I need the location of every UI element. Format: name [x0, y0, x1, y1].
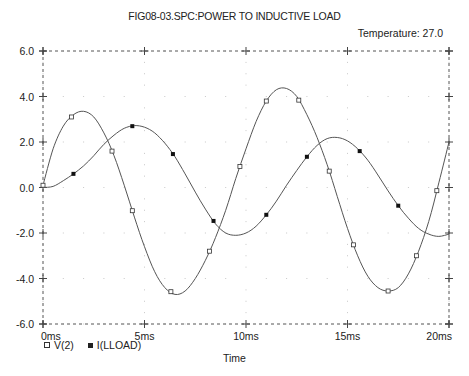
- grid-dot: [286, 187, 287, 188]
- open-square-marker-icon: [238, 165, 242, 169]
- grid-dot: [286, 324, 287, 325]
- grid-dot: [388, 96, 389, 97]
- grid-dot: [347, 301, 348, 302]
- grid-dot: [246, 267, 247, 268]
- filled-square-marker-icon: [171, 152, 175, 156]
- grid-dot: [246, 85, 247, 86]
- grid-dot: [246, 221, 247, 222]
- filled-square-marker-icon: [88, 343, 93, 348]
- y-tick-label: 0.0: [19, 182, 34, 194]
- grid-dot: [144, 289, 145, 290]
- grid-dot: [144, 107, 145, 108]
- grid-dot: [408, 187, 409, 188]
- grid-dot: [83, 96, 84, 97]
- grid-dot: [367, 142, 368, 143]
- grid-dot: [144, 153, 145, 154]
- grid-dot: [367, 278, 368, 279]
- filled-square-marker-icon: [130, 124, 134, 128]
- grid-dot: [43, 73, 44, 74]
- grid-dot: [185, 142, 186, 143]
- grid-dot: [43, 289, 44, 290]
- grid-dot: [306, 142, 307, 143]
- grid-dot: [347, 119, 348, 120]
- filled-square-marker-icon: [264, 213, 268, 217]
- grid-dot: [185, 96, 186, 97]
- open-square-marker-icon: [386, 289, 390, 293]
- grid-dot: [144, 85, 145, 86]
- grid-dot: [449, 312, 450, 313]
- grid-dot: [246, 301, 247, 302]
- grid-dot: [144, 164, 145, 165]
- grid-dot: [43, 62, 44, 63]
- filled-square-marker-icon: [358, 149, 362, 153]
- grid-dot: [246, 62, 247, 63]
- grid-dot: [164, 187, 165, 188]
- grid-dot: [103, 187, 104, 188]
- filled-square-marker-icon: [396, 204, 400, 208]
- grid-dot: [185, 233, 186, 234]
- grid-dot: [83, 142, 84, 143]
- grid-dot: [205, 278, 206, 279]
- grid-dot: [347, 221, 348, 222]
- grid-dot: [246, 244, 247, 245]
- grid-dot: [428, 96, 429, 97]
- grid-dot: [286, 233, 287, 234]
- grid-dot: [327, 278, 328, 279]
- grid-dot: [347, 255, 348, 256]
- grid-dot: [124, 142, 125, 143]
- y-tick-label: 2.0: [19, 136, 34, 148]
- grid-dot: [347, 85, 348, 86]
- grid-dot: [428, 278, 429, 279]
- grid-dot: [144, 267, 145, 268]
- grid-dot: [205, 187, 206, 188]
- plot-area: 6.04.02.00.0-2.0-4.0-6.00ms5ms10ms15ms20…: [0, 0, 469, 376]
- grid-dot: [144, 210, 145, 211]
- grid-dot: [347, 289, 348, 290]
- y-tick-label: -6.0: [16, 318, 34, 330]
- grid-dot: [246, 119, 247, 120]
- y-tick-label: -4.0: [16, 273, 34, 285]
- grid-dot: [185, 324, 186, 325]
- open-square-marker-icon: [435, 189, 439, 193]
- grid-dot: [246, 198, 247, 199]
- legend-item-iload: I(LLOAD): [88, 339, 141, 351]
- grid-dot: [367, 233, 368, 234]
- grid-dot: [144, 176, 145, 177]
- grid-dot: [306, 187, 307, 188]
- grid-dot: [225, 142, 226, 143]
- x-tick-label: 20ms: [426, 330, 452, 342]
- grid-dot: [164, 233, 165, 234]
- grid-dot: [367, 96, 368, 97]
- grid-dot: [43, 85, 44, 86]
- grid-dot: [205, 96, 206, 97]
- grid-dot: [246, 255, 247, 256]
- legend-label: V(2): [54, 339, 74, 351]
- grid-dot: [449, 289, 450, 290]
- grid-dot: [246, 130, 247, 131]
- filled-square-marker-icon: [212, 219, 216, 223]
- grid-dot: [449, 73, 450, 74]
- y-tick-label: 4.0: [19, 91, 34, 103]
- grid-dot: [306, 278, 307, 279]
- open-square-marker-icon: [110, 149, 114, 153]
- open-square-marker-icon: [169, 290, 173, 294]
- grid-dot: [388, 233, 389, 234]
- grid-dot: [43, 176, 44, 177]
- grid-dot: [83, 278, 84, 279]
- grid-dot: [408, 233, 409, 234]
- grid-dot: [286, 142, 287, 143]
- grid-dot: [408, 96, 409, 97]
- grid-dot: [246, 312, 247, 313]
- grid-dot: [246, 73, 247, 74]
- grid-dot: [388, 142, 389, 143]
- grid-dot: [347, 62, 348, 63]
- grid-dot: [43, 301, 44, 302]
- grid-dot: [124, 96, 125, 97]
- legend-label: I(LLOAD): [97, 339, 141, 351]
- grid-dot: [246, 289, 247, 290]
- legend: V(2) I(LLOAD): [44, 339, 141, 351]
- grid-dot: [144, 130, 145, 131]
- grid-dot: [408, 51, 409, 52]
- grid-dot: [449, 176, 450, 177]
- open-square-marker-icon: [264, 99, 268, 103]
